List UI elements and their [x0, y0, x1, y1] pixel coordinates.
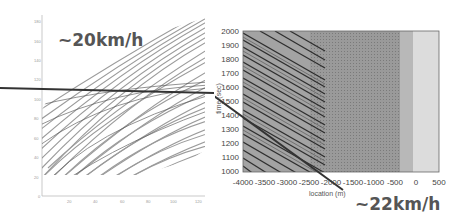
- right-y-tick: 1800: [211, 55, 239, 64]
- right-y-axis-title: time (sec): [215, 83, 222, 114]
- right-y-tick: 1700: [211, 69, 239, 78]
- left-y-tick: 140: [34, 58, 41, 63]
- left-y-tick: 0: [38, 194, 40, 199]
- right-y-tick: 1200: [211, 139, 239, 148]
- left-y-tick: 120: [34, 77, 41, 82]
- right-speed-annotation: ~22km/h: [355, 194, 440, 214]
- left-y-tick: 160: [34, 39, 41, 44]
- left-x-tick: 20: [67, 199, 71, 204]
- left-y-tick: 20: [34, 175, 38, 180]
- right-y-tick: 1100: [211, 153, 239, 162]
- left-x-tick: 120: [195, 199, 202, 204]
- left-trajectory-chart: 180 160 140 120 100 80 60 40 20 0 20 40 …: [0, 0, 215, 219]
- left-x-tick: 100: [170, 199, 177, 204]
- left-speed-annotation: ~20km/h: [58, 30, 143, 50]
- left-y-tick: 80: [34, 116, 38, 121]
- left-y-tick: 180: [34, 19, 41, 24]
- right-y-tick: 1000: [211, 167, 239, 176]
- left-x-tick: 80: [146, 199, 150, 204]
- right-y-tick: 1900: [211, 41, 239, 50]
- left-y-tick: 100: [34, 97, 41, 102]
- right-trajectory-chart: 2000 1900 1800 1700 1600 1500 1400 1300 …: [215, 0, 467, 219]
- left-y-tick: 40: [34, 155, 38, 160]
- right-y-tick: 2000: [211, 27, 239, 36]
- left-x-tick: 40: [93, 199, 97, 204]
- left-y-tick: 60: [34, 136, 38, 141]
- left-x-tick: 60: [120, 199, 124, 204]
- right-y-tick: 1300: [211, 125, 239, 134]
- right-x-axis-title: location (m): [309, 190, 346, 197]
- right-x-tick: 500: [424, 178, 454, 187]
